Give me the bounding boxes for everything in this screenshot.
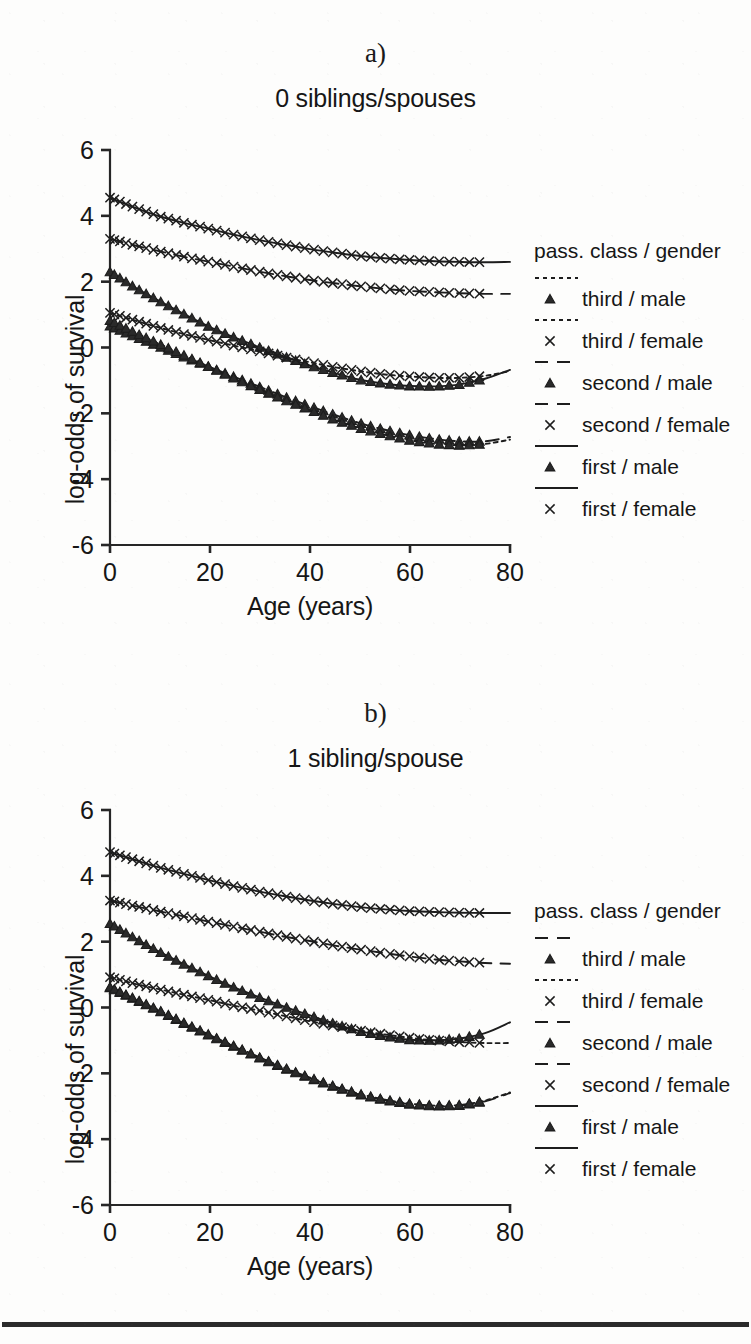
legend-entry-third-male[interactable]: third / male [535,938,686,970]
series-third-male [105,982,510,1109]
legend-marker [545,996,554,1005]
legend-entry-first-male[interactable]: first / male [535,1106,679,1138]
legend-entry-label: third / male [582,287,686,310]
legend-entry-second-male[interactable]: second / male [535,362,713,394]
legend-entry-label: second / male [582,371,713,394]
panel-b-plot-area: 6420-2-4-6020406080pass. class / gendert… [0,790,751,1310]
legend-marker [545,336,554,345]
legend-marker [545,954,555,963]
marker-x [545,996,554,1005]
x-tick-label: 80 [496,1218,524,1246]
x-tick-label: 60 [396,1218,424,1246]
legend-entry-label: first / female [582,1157,696,1180]
panel-b: b) 1 sibling/spouse 6420-2-4-6020406080p… [0,660,751,1320]
legend-marker [545,1164,554,1173]
y-tick-label: 4 [80,202,94,230]
y-tick-label: 6 [80,136,94,164]
legend: pass. class / genderthird / malethird / … [534,239,730,520]
panel-a-chart: 6420-2-4-6020406080pass. class / gendert… [0,130,751,650]
legend-entry-label: second / male [582,1031,713,1054]
series-line [110,977,510,1043]
legend-entry-third-female[interactable]: third / female [535,320,703,352]
panel-a-plot-area: 6420-2-4-6020406080pass. class / gendert… [0,130,751,650]
marker-triangle [545,1122,555,1131]
y-tick-label: 6 [80,796,94,824]
legend-entry-second-female[interactable]: second / female [535,1064,730,1096]
legend-entry-third-female[interactable]: third / female [535,980,703,1012]
marker-triangle [545,294,555,303]
legend-entry-label: second / female [582,413,730,436]
series-line [110,987,510,1106]
legend-marker [545,462,555,471]
x-tick-label: 0 [103,558,117,586]
legend-entry-label: third / male [582,947,686,970]
marker-triangle [246,1049,256,1058]
legend: pass. class / genderthird / malethird / … [534,899,730,1180]
x-axis-ticks: 020406080 [103,544,524,586]
x-tick-label: 60 [396,558,424,586]
series-group [105,848,510,1111]
panel-b-x-axis-label: Age (years) [110,1252,510,1281]
legend-marker [545,1122,555,1131]
marker-x [273,270,282,279]
panel-a-letter: a) [0,38,751,69]
marker-triangle [545,1038,555,1047]
legend-marker [545,1038,555,1047]
series-line [110,852,510,913]
legend-entry-first-male[interactable]: first / male [535,446,679,478]
legend-entry-label: first / male [582,1115,679,1138]
panel-a-y-axis-label: log-odds of survival [61,230,90,570]
legend-entry-label: third / female [582,989,703,1012]
legend-marker [545,378,555,387]
marker-triangle [444,1101,454,1110]
legend-entry-second-female[interactable]: second / female [535,404,730,436]
panel-b-y-axis-label: log-odds of survival [61,890,90,1230]
legend-title: pass. class / gender [534,899,721,922]
legend-entry-label: third / female [582,329,703,352]
series-first-female [105,848,510,918]
legend-title: pass. class / gender [534,239,721,262]
series-second-female [105,234,510,298]
x-tick-label: 20 [196,1218,224,1246]
marker-x [545,504,554,513]
legend-entry-first-female[interactable]: first / female [535,1148,696,1180]
marker-triangle [545,462,555,471]
marker-x [545,1080,554,1089]
series-group [105,193,510,449]
legend-entry-first-female[interactable]: first / female [535,488,696,520]
x-tick-label: 80 [496,558,524,586]
panel-b-title: 1 sibling/spouse [0,744,751,773]
marker-triangle [545,954,555,963]
marker-x [273,931,282,940]
x-tick-label: 40 [296,1218,324,1246]
axes [110,810,510,1205]
series-second-male [105,983,510,1110]
panel-a-title: 0 siblings/spouses [0,84,751,113]
legend-entry-label: second / female [582,1073,730,1096]
marker-triangle [282,1064,292,1073]
marker-x [128,855,137,864]
marker-x [187,914,196,923]
legend-entry-second-male[interactable]: second / male [535,1022,713,1054]
series-line [110,239,510,294]
legend-marker [545,1080,554,1089]
x-tick-label: 40 [296,558,324,586]
legend-marker [545,294,555,303]
legend-entry-label: first / male [582,455,679,478]
x-tick-label: 20 [196,558,224,586]
series-line [110,988,510,1107]
legend-marker [545,504,554,513]
marker-x [545,420,554,429]
page-bottom-rule [2,1322,749,1327]
axis-lines [110,810,510,1205]
legend-marker [545,420,554,429]
figure-page: a) 0 siblings/spouses 6420-2-4-602040608… [0,0,751,1344]
panel-a-x-axis-label: Age (years) [110,592,510,621]
x-axis-ticks: 020406080 [103,1204,524,1246]
panel-a: a) 0 siblings/spouses 6420-2-4-602040608… [0,0,751,660]
marker-x [545,336,554,345]
series-third-female [105,308,510,382]
legend-entry-third-male[interactable]: third / male [535,278,686,310]
x-tick-label: 0 [103,1218,117,1246]
panel-b-chart: 6420-2-4-6020406080pass. class / gendert… [0,790,751,1310]
